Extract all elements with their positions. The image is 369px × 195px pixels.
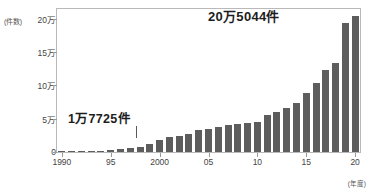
x-tick-mark	[257, 153, 258, 157]
x-axis-unit-label: (年度)	[348, 178, 366, 188]
max-annotation-label: 20万5044件	[208, 6, 280, 25]
bar	[58, 151, 65, 152]
bar	[156, 140, 163, 152]
x-tick-mark	[111, 153, 112, 157]
bar	[107, 150, 114, 152]
bar-chart: (件数) 05万10万15万20万 199095200005101520 20万…	[0, 0, 369, 195]
bar	[264, 115, 271, 153]
y-tick-mark	[53, 152, 57, 153]
x-tick-label: 05	[204, 157, 213, 167]
bar	[283, 108, 290, 152]
bar	[68, 151, 75, 152]
bar	[185, 134, 192, 152]
bar	[332, 63, 339, 152]
bar	[78, 151, 85, 152]
x-tick-label: 20	[350, 157, 359, 167]
x-tick-label: 95	[106, 157, 115, 167]
x-tick-label: 2000	[150, 157, 169, 167]
bar	[146, 144, 153, 152]
bar	[293, 103, 300, 152]
bar	[195, 130, 202, 152]
bar	[244, 123, 251, 152]
bar	[254, 122, 261, 152]
bar-series	[57, 9, 360, 152]
bar	[127, 148, 134, 152]
x-tick-mark	[62, 153, 63, 157]
min-annotation-label: 1万7725件	[68, 108, 131, 127]
bar	[117, 149, 124, 152]
bar	[97, 151, 104, 152]
x-tick-mark	[160, 153, 161, 157]
bar	[88, 151, 95, 152]
bar	[176, 136, 183, 152]
bar	[273, 112, 280, 152]
bar	[137, 147, 144, 152]
min-annotation-leader-line	[136, 126, 137, 138]
max-annotation-leader-line	[352, 22, 353, 38]
bar	[215, 127, 222, 152]
x-tick-mark	[209, 153, 210, 157]
bar	[225, 125, 232, 152]
x-tick-label: 10	[253, 157, 262, 167]
bar	[322, 70, 329, 152]
y-axis-unit-label: (件数)	[4, 16, 22, 26]
bar	[166, 137, 173, 152]
bar	[303, 93, 310, 152]
bar	[234, 124, 241, 152]
bar	[205, 129, 212, 152]
x-tick-label: 1990	[52, 157, 71, 167]
x-tick-label: 15	[302, 157, 311, 167]
bar	[342, 23, 349, 152]
bar	[313, 83, 320, 152]
x-tick-mark	[306, 153, 307, 157]
x-tick-mark	[355, 153, 356, 157]
